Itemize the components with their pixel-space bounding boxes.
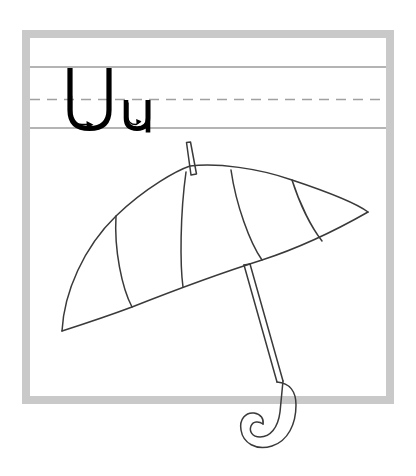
worksheet-page: Letter U u Handwriting Practice: [0, 0, 416, 476]
worksheet-canvas: [0, 0, 416, 476]
page-background: [0, 0, 416, 476]
umbrella-shaft-top-cap: [244, 264, 250, 265]
